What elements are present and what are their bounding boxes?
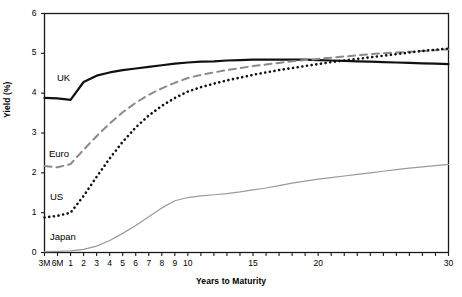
- series-label-japan: Japan: [50, 231, 76, 242]
- y-tick-label: 4: [21, 87, 37, 97]
- x-axis-title: Years to Maturity: [196, 276, 266, 286]
- yield-curve-chart: Yield (%) Years to Maturity 01234563M6M1…: [0, 0, 462, 297]
- series-line-uk: [45, 60, 449, 100]
- y-tick-label: 3: [21, 127, 37, 137]
- x-tick-label: 30: [436, 258, 462, 268]
- x-tick-label: 15: [240, 258, 266, 268]
- chart-plot-area: [0, 0, 462, 297]
- y-tick-label: 2: [21, 167, 37, 177]
- series-line-japan: [45, 164, 449, 251]
- series-label-us: US: [50, 191, 63, 202]
- y-tick-label: 6: [21, 8, 37, 18]
- series-label-uk: UK: [57, 72, 70, 83]
- plot-frame: [45, 14, 449, 253]
- y-tick-label: 1: [21, 207, 37, 217]
- x-tick-label: 20: [305, 258, 331, 268]
- y-axis-title: Yield (%): [2, 82, 12, 118]
- y-tick-label: 5: [21, 47, 37, 57]
- series-line-euro: [45, 49, 449, 167]
- series-label-euro: Euro: [49, 148, 69, 159]
- y-tick-label: 0: [21, 247, 37, 257]
- x-tick-label: 10: [175, 258, 201, 268]
